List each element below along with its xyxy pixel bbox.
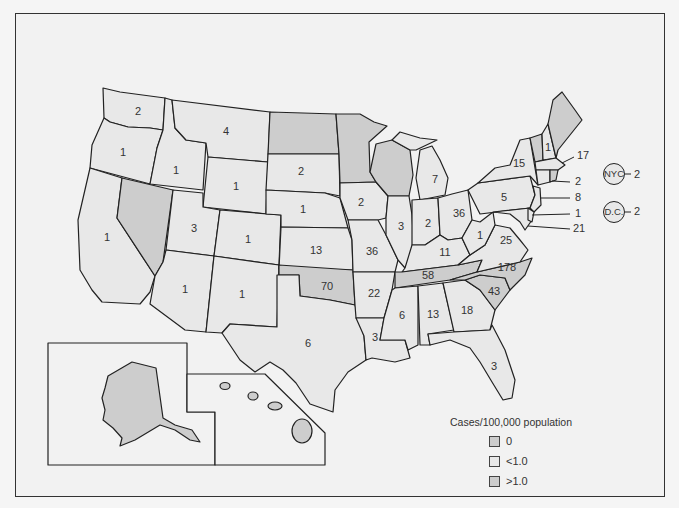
us-map: 2 1 1 1 4 1 3 1 1 1 2 1 13 70 6 2 36 22 … [0,0,679,508]
legend-label-zero: 0 [506,435,512,447]
callout-line-md [528,226,570,229]
callout-de: 1 [575,207,581,219]
legend-swatch-zero [489,436,500,447]
state-nd [268,112,339,154]
legend-item-high: >1.0 [489,475,528,487]
label-wv: 1 [477,229,483,241]
label-ny: 15 [513,157,525,169]
label-in: 2 [425,217,431,229]
legend-item-zero: 0 [489,435,512,447]
label-al: 13 [427,308,439,320]
label-oh: 36 [453,207,465,219]
callout-ct: 2 [575,175,581,187]
label-mt: 4 [223,125,229,137]
label-wy: 1 [233,180,239,192]
label-va: 25 [500,234,512,246]
callout-line-de [532,214,570,215]
callout-nj: 8 [575,191,581,203]
state-fl [428,325,515,400]
label-nh: 1 [545,141,551,153]
label-nm: 1 [239,288,245,300]
label-wa: 2 [135,105,141,117]
nyc-label: NYC [604,168,624,179]
legend-item-low: <1.0 [489,455,528,467]
legend-swatch-low [489,456,500,467]
state-ri [550,170,558,182]
label-ga: 18 [461,304,473,316]
state-hi-maui [268,402,282,410]
label-nc: 178 [498,261,516,273]
label-ar: 22 [368,287,380,299]
label-mo: 36 [366,245,378,257]
label-ks: 13 [310,244,322,256]
legend-label-low: <1.0 [506,455,528,467]
label-mi: 7 [432,173,438,185]
label-sc: 43 [488,285,500,297]
state-ct [536,170,550,185]
label-tx: 6 [305,337,311,349]
label-pa: 5 [501,191,507,203]
label-id: 1 [173,164,179,176]
label-tn: 58 [422,269,434,281]
dc-value: 2 [634,205,640,217]
label-ne: 1 [300,203,306,215]
label-ca: 1 [104,231,110,243]
label-la: 3 [372,331,378,343]
callout-md: 21 [573,222,585,234]
callout-line-ma [562,157,574,163]
label-il: 3 [398,220,404,232]
callout-line-ct [552,181,570,182]
state-hi-big [292,419,312,443]
label-ky: 11 [439,246,450,258]
callout-ma: 17 [577,149,589,161]
label-sd: 2 [298,165,304,177]
label-az: 1 [182,283,188,295]
legend-swatch-high [489,476,500,487]
label-or: 1 [120,146,126,158]
dc-label: D.C. [605,206,624,217]
label-fl: 3 [491,360,497,372]
state-hi-oahu [248,392,258,400]
nyc-value: 2 [634,168,640,180]
legend-label-high: >1.0 [506,475,528,487]
state-hi-kauai [220,383,230,390]
label-ut: 3 [191,222,197,234]
label-co: 1 [245,233,251,245]
label-ms: 6 [399,309,405,321]
label-ia: 2 [358,196,364,208]
label-ok: 70 [321,280,333,292]
legend-title: Cases/100,000 population [450,416,572,428]
